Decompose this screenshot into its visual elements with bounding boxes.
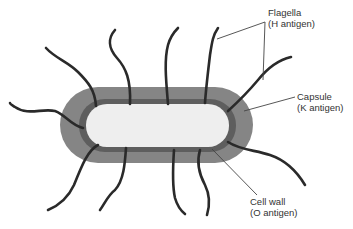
cell-wall-label: Cell wall (O antigen) <box>250 196 298 218</box>
cell-wall-label-antigen: (O antigen) <box>250 207 298 218</box>
flagella-label: Flagella (H antigen) <box>268 7 315 29</box>
capsule-label-antigen: (K antigen) <box>297 102 343 113</box>
capsule-leader-line <box>244 97 295 111</box>
cytoplasm <box>86 104 229 147</box>
flagellum <box>228 57 291 111</box>
cell-wall-label-title: Cell wall <box>250 196 298 207</box>
flagella-label-antigen: (H antigen) <box>268 18 315 29</box>
flagella-label-title: Flagella <box>268 7 315 18</box>
bacterium-diagram <box>0 0 353 229</box>
capsule-label-title: Capsule <box>297 91 343 102</box>
flagella-leader-line <box>217 22 265 80</box>
flagellum <box>228 142 305 185</box>
capsule-label: Capsule (K antigen) <box>297 91 343 113</box>
